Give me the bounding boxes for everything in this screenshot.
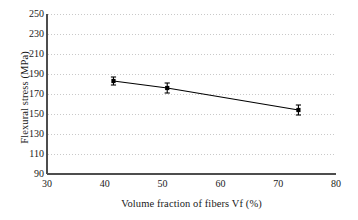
trend-line [113,81,298,110]
error-bars [111,77,301,115]
gridlines [48,14,336,154]
plot-area [0,0,358,220]
chart-figure: Flexural stress (MPa) 250 230 210 190 17… [0,0,358,220]
